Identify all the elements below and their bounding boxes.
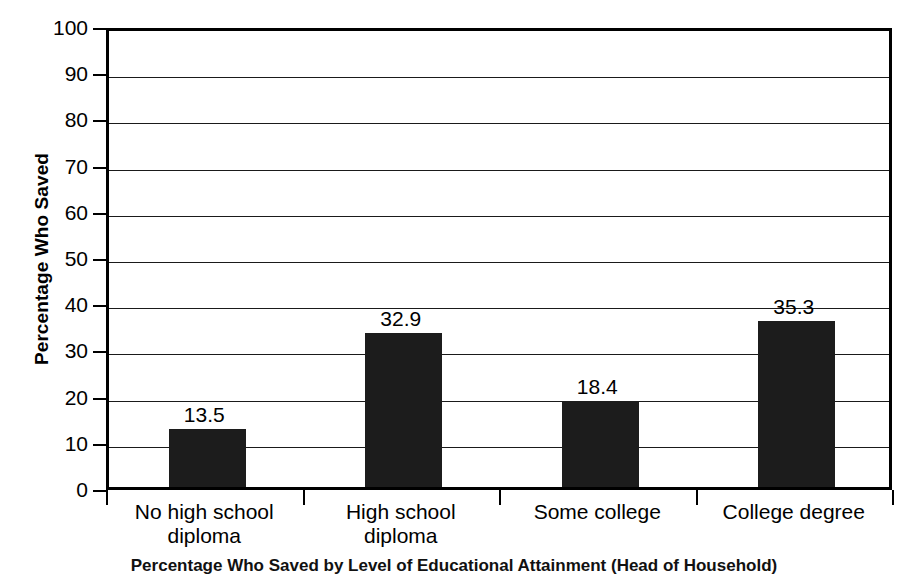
x-axis-tick-mark bbox=[892, 490, 894, 505]
bar bbox=[365, 333, 442, 487]
y-axis-tick-mark bbox=[93, 74, 106, 76]
gridline bbox=[109, 123, 889, 124]
x-axis-category-label-line: diploma bbox=[106, 524, 303, 548]
bar bbox=[169, 429, 246, 487]
x-axis-category-label-line: Some college bbox=[499, 500, 696, 524]
y-axis-tick-mark bbox=[93, 120, 106, 122]
y-axis-title: Percentage Who Saved bbox=[31, 119, 53, 399]
gridline bbox=[109, 77, 889, 78]
x-axis-category-label: No high schooldiploma bbox=[106, 500, 303, 548]
x-axis-category-label-line: College degree bbox=[696, 500, 893, 524]
y-axis-tick-label: 30 bbox=[65, 340, 88, 361]
y-axis-tick-mark bbox=[93, 305, 106, 307]
x-axis-category-label-line: High school bbox=[303, 500, 500, 524]
y-axis-tick-label: 70 bbox=[65, 156, 88, 177]
y-axis-tick-label: 20 bbox=[65, 387, 88, 408]
gridline bbox=[109, 262, 889, 263]
x-axis-category-label-line: diploma bbox=[303, 524, 500, 548]
y-axis-tick-label: 100 bbox=[53, 17, 88, 38]
y-axis-tick-label: 80 bbox=[65, 109, 88, 130]
bar-value-label: 18.4 bbox=[537, 376, 657, 397]
y-axis-tick-label: 90 bbox=[65, 63, 88, 84]
y-axis-tick-label: 40 bbox=[65, 294, 88, 315]
y-axis-tick-mark bbox=[93, 444, 106, 446]
y-axis-tick-label: 50 bbox=[65, 248, 88, 269]
x-axis-category-label: College degree bbox=[696, 500, 893, 524]
y-axis-tick-mark bbox=[93, 490, 106, 492]
gridline bbox=[109, 216, 889, 217]
y-axis-tick-mark bbox=[93, 213, 106, 215]
y-axis-tick-mark bbox=[93, 259, 106, 261]
y-axis-tick-mark bbox=[93, 28, 106, 30]
y-axis-tick-label: 10 bbox=[65, 433, 88, 454]
x-axis-category-label: High schooldiploma bbox=[303, 500, 500, 548]
y-axis-tick-mark bbox=[93, 167, 106, 169]
gridline bbox=[109, 170, 889, 171]
bar bbox=[758, 321, 835, 487]
y-axis-tick-label: 60 bbox=[65, 202, 88, 223]
x-axis-category-label-line: No high school bbox=[106, 500, 303, 524]
figure-caption: Percentage Who Saved by Level of Educati… bbox=[0, 556, 908, 576]
bar-value-label: 13.5 bbox=[144, 404, 264, 425]
bar-value-label: 32.9 bbox=[341, 308, 461, 329]
y-axis-tick-mark bbox=[93, 351, 106, 353]
bar bbox=[562, 401, 639, 487]
y-axis-tick-label: 0 bbox=[76, 479, 88, 500]
y-axis-tick-mark bbox=[93, 398, 106, 400]
x-axis-category-label: Some college bbox=[499, 500, 696, 524]
bar-value-label: 35.3 bbox=[734, 296, 854, 317]
